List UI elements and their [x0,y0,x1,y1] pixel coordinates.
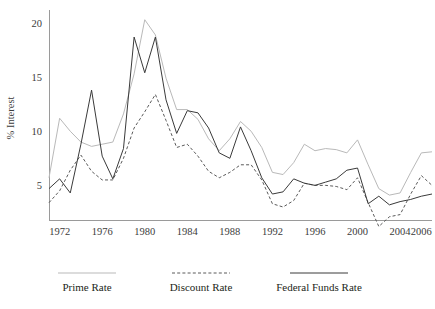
x-tick-label: 1972 [49,226,70,237]
y-axis-group: 5101520 % Interest [5,10,49,220]
x-tick-label: 2006 [411,226,432,237]
y-axis-tick-labels: 5101520 [32,18,43,191]
legend-label: Discount Rate [170,281,233,293]
data-series-group [49,20,432,227]
x-tick-label: 1976 [92,226,113,237]
interest-rate-chart-figure: 5101520 % Interest 197219761980198419881… [0,0,435,309]
chart-legend: Prime RateDiscount RateFederal Funds Rat… [58,273,362,293]
x-tick-label: 2000 [347,226,368,237]
x-tick-label: 1984 [177,226,199,237]
y-tick-label: 10 [32,126,43,137]
x-tick-label: 1996 [304,226,325,237]
x-axis-tick-labels: 1972197619801984198819921996200020042006 [49,226,432,237]
y-axis-title: % Interest [5,96,16,139]
x-tick-label: 2004 [390,226,412,237]
legend-label: Prime Rate [62,281,111,293]
y-tick-label: 15 [32,72,43,83]
series-line [49,94,432,226]
y-tick-label: 5 [37,180,42,191]
chart-canvas: 5101520 % Interest 197219761980198419881… [0,0,435,309]
x-axis-group: 1972197619801984198819921996200020042006 [49,220,432,237]
legend-label: Federal Funds Rate [276,281,362,293]
y-tick-label: 20 [32,18,43,29]
x-tick-label: 1988 [219,226,240,237]
series-line [49,20,432,195]
x-tick-label: 1992 [262,226,283,237]
x-tick-label: 1980 [134,226,155,237]
